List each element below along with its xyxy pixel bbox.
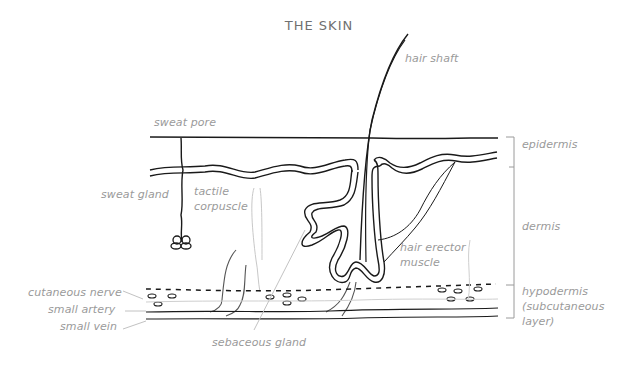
hypodermis-boundary-dashed [146,284,496,291]
epidermis-dermis-junction-right-inner [380,158,497,173]
layer-label-hypodermis-line1: hypodermis [522,284,605,299]
label-tactile-corpuscle-line2: corpuscle [194,199,248,214]
label-hair-shaft: hair shaft [405,52,458,65]
leader-lines [123,230,338,330]
layer-label-hypodermis-line3: layer) [522,314,605,329]
hair-follicle-inner [312,166,380,276]
label-tactile-corpuscle-line1: tactile [194,184,248,199]
hair-shaft [360,34,408,260]
layer-label-hypodermis-line2: (subcutaneous [522,299,605,314]
diagram-title: THE SKIN [0,18,634,33]
epidermis-dermis-junction-right [374,152,497,168]
cutaneous-nerve-line [146,299,498,302]
tactile-corpuscle [252,188,262,292]
small-vein-line [146,316,498,319]
layer-brackets [506,137,514,318]
label-hair-erector-muscle: hair erector muscle [400,240,466,270]
skin-surface-line [150,137,498,139]
label-tactile-corpuscle: tactile corpuscle [194,184,248,214]
layer-label-epidermis: epidermis [522,138,577,151]
label-sweat-gland: sweat gland [101,188,169,201]
hair-shaft-inner [366,40,405,262]
small-artery-line [146,308,498,312]
layer-label-hypodermis: hypodermis (subcutaneous layer) [522,284,605,329]
right-vessel [468,240,470,300]
label-small-vein: small vein [60,320,117,333]
label-hair-erector-muscle-line2: muscle [400,255,466,270]
label-small-artery: small artery [48,303,115,316]
sweat-gland-coil [171,236,191,249]
nerve-fiber-3 [326,282,350,312]
nerve-fiber-1 [210,250,236,312]
layer-label-dermis: dermis [522,220,560,233]
title-text: THE SKIN [285,18,353,33]
label-hair-erector-muscle-line1: hair erector [400,240,466,255]
label-cutaneous-nerve: cutaneous nerve [28,286,122,299]
sweat-duct [181,138,183,242]
label-sweat-pore: sweat pore [154,116,216,129]
label-sebaceous-gland: sebaceous gland [212,336,306,349]
